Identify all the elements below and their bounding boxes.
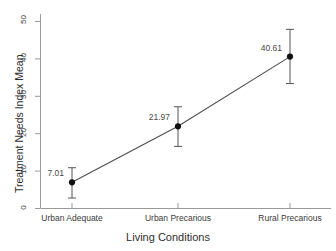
data-point-value-label: 40.61 [232,43,282,53]
y-tick-label: 50 [19,11,28,29]
data-point-value-label: 21.97 [120,112,170,122]
y-tick-label: 30 [19,86,28,104]
x-tick-label: Rural Precarious [240,213,336,223]
x-tick-label: Urban Adequate [22,213,122,223]
y-axis-ticks [35,21,41,208]
y-tick-label: 20 [19,123,28,141]
series-line [72,57,290,183]
data-point-marker [69,179,75,185]
error-bars [68,29,294,198]
y-tick-label: 40 [19,48,28,66]
chart-figure: Treatment Needs Index Mean 01020304050 U… [0,0,336,251]
x-axis-title: Living Conditions [103,231,233,243]
data-point-value-label: 7.01 [14,168,64,178]
x-axis-ticks [72,203,290,209]
x-tick-label: Urban Precarious [128,213,228,223]
data-point-marker [175,123,181,129]
data-point-marker [287,54,293,60]
